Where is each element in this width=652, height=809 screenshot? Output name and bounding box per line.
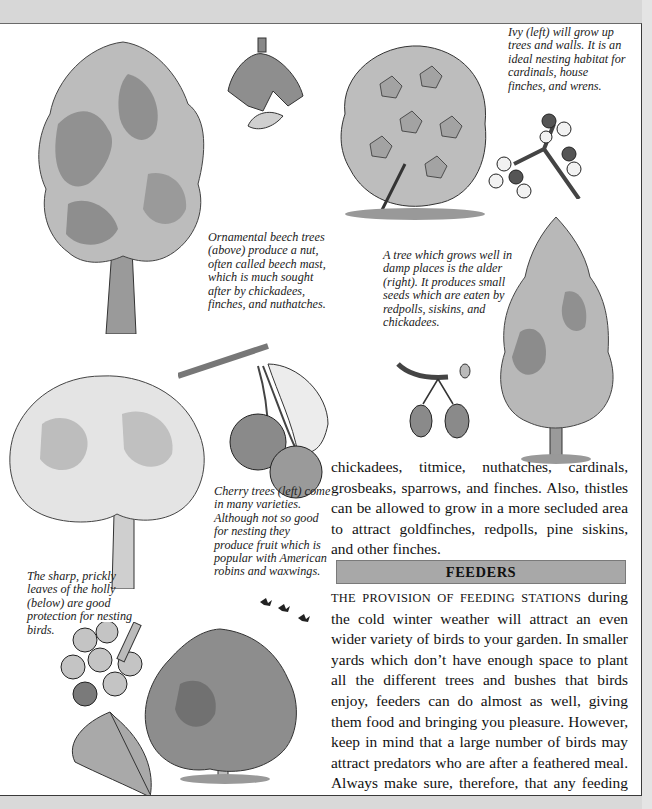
cherry-caption: Cherry trees (left) come in many varieti…: [214, 485, 332, 579]
flying-birds-illustration: [258, 594, 318, 629]
feeders-paragraph: THE PROVISION OF FEEDING STATIONS during…: [331, 587, 628, 796]
beech-caption: Ornamental beech trees (above) produce a…: [208, 231, 326, 311]
alder-cones-illustration: [393, 359, 488, 454]
top-margin: [0, 0, 652, 23]
ivy-berries-illustration: [484, 109, 594, 199]
cherries-illustration: [178, 324, 338, 499]
beech-tree-illustration: [28, 34, 213, 334]
right-margin: [642, 0, 652, 809]
section-header-feeders: FEEDERS: [336, 560, 626, 584]
holly-tree-illustration: [140, 624, 305, 789]
feeders-body: during the cold winter weather will attr…: [331, 588, 628, 796]
ivy-illustration: [330, 34, 495, 224]
ivy-caption: Ivy (left) will grow up trees and walls.…: [508, 26, 628, 93]
alder-tree-illustration: [490, 212, 625, 467]
beech-nut-illustration: [218, 36, 308, 136]
book-page: Ivy (left) will grow up trees and walls.…: [0, 23, 642, 796]
feeders-lead-in: THE PROVISION OF FEEDING STATIONS: [331, 591, 581, 605]
intro-paragraph: chickadees, titmice, nuthatches, cardina…: [331, 457, 628, 560]
